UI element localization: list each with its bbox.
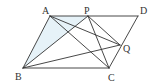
- label-p: P: [84, 5, 90, 16]
- geometry-diagram: A P D B C Q: [0, 0, 156, 84]
- segment-pq: [88, 16, 120, 45]
- segment-pc: [88, 16, 109, 68]
- segment-ac: [50, 16, 109, 68]
- label-c: C: [108, 72, 115, 83]
- label-d: D: [140, 5, 147, 16]
- label-b: B: [15, 71, 22, 82]
- label-a: A: [42, 5, 50, 16]
- label-q: Q: [123, 43, 131, 54]
